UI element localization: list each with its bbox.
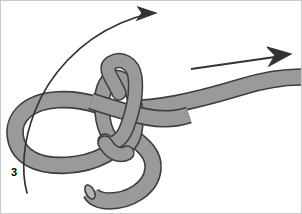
knot-diagram-figure: 3 — [0, 0, 302, 214]
rope-group — [15, 61, 301, 201]
knot-illustration — [1, 1, 301, 213]
curved-arrow-head-icon — [137, 7, 156, 20]
straight-arrow-head-icon — [267, 47, 291, 66]
step-number-label: 3 — [11, 167, 17, 178]
straight-arrow-right — [191, 47, 291, 69]
